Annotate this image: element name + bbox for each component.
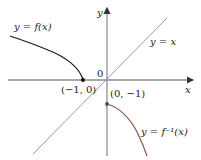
f-curve [10, 36, 83, 80]
point-0-neg1 [105, 102, 109, 106]
inverse-function-diagram: y = f(x) y = x y = f⁻¹(x) (−1, 0) (0, −1… [0, 0, 201, 160]
identity-line-label: y = x [149, 36, 176, 47]
x-axis-label: x [185, 84, 191, 95]
origin-label: 0 [97, 68, 103, 79]
f-inverse-curve-label: y = f⁻¹(x) [140, 126, 188, 137]
f-curve-label: y = f(x) [13, 21, 52, 32]
point-neg1-0 [81, 78, 85, 82]
y-axis-label: y [96, 7, 103, 18]
point-neg1-0-label: (−1, 0) [61, 84, 96, 95]
point-0-neg1-label: (0, −1) [110, 88, 145, 99]
